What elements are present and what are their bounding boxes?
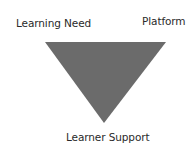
triangle-diagram: Learning Need Platform Learner Support (0, 0, 193, 158)
label-learner-support: Learner Support (66, 131, 149, 143)
